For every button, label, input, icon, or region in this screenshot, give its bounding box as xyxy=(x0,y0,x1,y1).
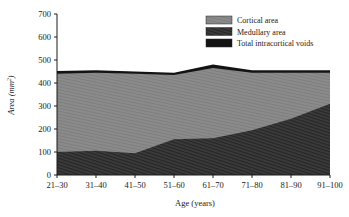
y-axis-title: Area (mm2) xyxy=(6,75,16,115)
y-axis-tick-label: 400 xyxy=(38,78,51,88)
x-axis-tick-label: 71–80 xyxy=(241,180,262,190)
svg-text:Area (mm2): Area (mm2) xyxy=(6,75,16,115)
x-axis-tick-label: 61–70 xyxy=(202,180,223,190)
legend-swatch xyxy=(206,16,232,24)
y-axis-tick-label: 500 xyxy=(38,55,51,65)
legend-label: Cortical area xyxy=(237,16,279,25)
y-axis-tick-label: 300 xyxy=(38,101,51,111)
x-axis-tick-label: 91–100 xyxy=(317,180,343,190)
x-axis-tick-label: 41–50 xyxy=(124,180,145,190)
y-axis-tick-label: 200 xyxy=(38,124,51,134)
legend-swatch xyxy=(206,28,232,36)
legend-label: Medullary area xyxy=(237,28,286,37)
plot-areas xyxy=(57,65,330,175)
y-axis-tick-label: 0 xyxy=(47,170,51,180)
x-axis-tick-label: 81–90 xyxy=(280,180,301,190)
chart-canvas: 0100200300400500600700 21–3031–4041–5051… xyxy=(0,0,349,217)
area-chart: 0100200300400500600700 21–3031–4041–5051… xyxy=(0,0,349,217)
legend-label: Total intracortical voids xyxy=(237,39,313,48)
legend-swatch xyxy=(206,39,232,47)
y-axis-title-main: Area (mm xyxy=(6,81,16,115)
x-axis-title: Age (years) xyxy=(175,198,215,208)
x-axis-tick-label: 51–60 xyxy=(163,180,184,190)
y-axis-tick-label: 100 xyxy=(38,147,51,157)
y-axis-tick-label: 600 xyxy=(38,32,51,42)
y-axis-tick-label: 700 xyxy=(38,9,51,19)
y-axis-title-close: ) xyxy=(6,75,16,79)
x-axis-tick-label: 31–40 xyxy=(85,180,106,190)
x-axis-tick-label: 21–30 xyxy=(46,180,67,190)
